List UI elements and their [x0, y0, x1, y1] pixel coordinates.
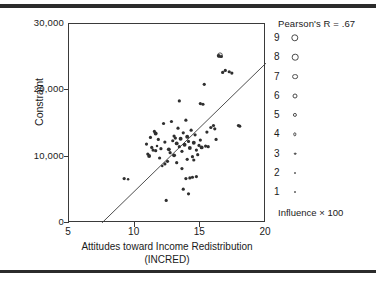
- data-point: [162, 122, 165, 125]
- data-point: [170, 120, 173, 123]
- y-tick-mark: [64, 222, 69, 223]
- y-tick-label: 30,000: [34, 18, 64, 28]
- data-point: [185, 135, 189, 139]
- y-axis-title: Constraint: [33, 42, 45, 162]
- data-point: [175, 161, 178, 164]
- legend-bubble-icon: [294, 191, 296, 193]
- legend-bubble-icon: [291, 34, 298, 41]
- data-point: [163, 140, 166, 143]
- data-point: [213, 127, 216, 130]
- data-point: [192, 141, 196, 145]
- data-point: [207, 145, 210, 148]
- data-point: [224, 69, 227, 72]
- data-point: [187, 192, 190, 195]
- x-tick-mark: [134, 222, 135, 227]
- data-point: [212, 124, 215, 127]
- data-point: [154, 149, 157, 152]
- legend-bubble-icon: [294, 152, 297, 155]
- data-point: [191, 176, 194, 179]
- scatter-plot-canvas: [69, 24, 266, 223]
- legend-bubble-slot: [288, 145, 302, 163]
- data-point: [149, 136, 152, 139]
- data-point: [169, 151, 172, 154]
- legend-item-value: 9: [274, 32, 283, 43]
- data-point: [187, 140, 190, 143]
- figure-container: 30,00020,00010,0000 5101520 Constraint A…: [0, 0, 376, 282]
- legend-bubble-slot: [288, 183, 302, 201]
- data-point: [186, 158, 189, 161]
- legend-item-value: 2: [274, 167, 283, 178]
- data-point: [183, 143, 187, 147]
- x-axis-title-line1: Attitudes toward Income Redistribution: [46, 241, 288, 252]
- data-point: [193, 133, 196, 136]
- data-point: [161, 165, 164, 168]
- legend-bubble-icon: [293, 113, 297, 117]
- data-point: [147, 154, 151, 158]
- data-point: [184, 177, 187, 180]
- data-point: [230, 71, 233, 74]
- data-point: [221, 71, 224, 74]
- data-point: [171, 139, 174, 142]
- legend-size-scale: 987654321: [274, 29, 374, 203]
- legend-bubble-icon: [292, 74, 298, 80]
- x-tick-mark: [199, 222, 200, 227]
- legend-bubble-slot: [288, 48, 302, 66]
- legend-item: 7: [274, 68, 374, 87]
- data-point: [196, 153, 199, 156]
- legend-bubble-slot: [288, 68, 302, 86]
- data-point: [175, 141, 179, 145]
- legend-item: 8: [274, 48, 374, 67]
- data-point: [158, 156, 161, 159]
- legend-item-value: 1: [274, 186, 283, 197]
- top-divider-rule: [0, 4, 376, 8]
- data-point: [154, 132, 158, 136]
- legend-item-value: 6: [274, 90, 283, 101]
- data-point: [180, 167, 183, 170]
- legend-item: 3: [274, 145, 374, 164]
- data-point: [159, 147, 162, 150]
- legend-item: 4: [274, 125, 374, 144]
- data-point: [157, 138, 160, 141]
- data-point: [123, 177, 126, 180]
- x-axis-title-line2: (INCRED): [46, 254, 288, 265]
- legend-footer-influence: Influence × 100: [278, 207, 374, 218]
- legend-item: 9: [274, 29, 374, 48]
- data-point: [182, 188, 185, 191]
- legend-title-pearson-r: Pearson's R = .67: [278, 18, 374, 29]
- legend-bubble-slot: [288, 29, 302, 47]
- data-point: [179, 137, 183, 141]
- data-point: [165, 199, 168, 202]
- data-point: [178, 99, 181, 102]
- data-point: [214, 138, 217, 141]
- legend-item: 2: [274, 164, 374, 183]
- data-point: [192, 158, 195, 161]
- x-tick-label: 20: [245, 226, 285, 237]
- legend-bubble-slot: [288, 164, 302, 182]
- data-point: [163, 162, 166, 165]
- legend-item: 1: [274, 183, 374, 202]
- legend-bubble-slot: [288, 125, 302, 143]
- legend-item-value: 7: [274, 71, 283, 82]
- bottom-divider-rule: [0, 270, 376, 273]
- data-point: [199, 138, 202, 141]
- legend: Pearson's R = .67 987654321 Influence × …: [274, 18, 374, 218]
- data-point: [166, 160, 169, 163]
- data-point: [200, 145, 204, 149]
- data-point: [220, 55, 223, 58]
- data-point: [205, 131, 208, 134]
- data-point: [201, 103, 204, 106]
- legend-bubble-icon: [292, 54, 299, 61]
- legend-item-value: 8: [274, 51, 283, 62]
- data-point: [180, 150, 183, 153]
- data-point: [191, 155, 194, 158]
- legend-bubble-icon: [294, 172, 296, 174]
- data-point: [195, 148, 198, 151]
- data-point: [203, 83, 206, 86]
- data-point: [167, 147, 171, 151]
- data-point: [209, 126, 212, 129]
- y-tick-mark: [64, 156, 69, 157]
- data-points-group: [123, 53, 242, 202]
- data-point: [145, 142, 148, 145]
- scatter-plot-frame: [68, 23, 265, 222]
- data-point: [190, 129, 193, 132]
